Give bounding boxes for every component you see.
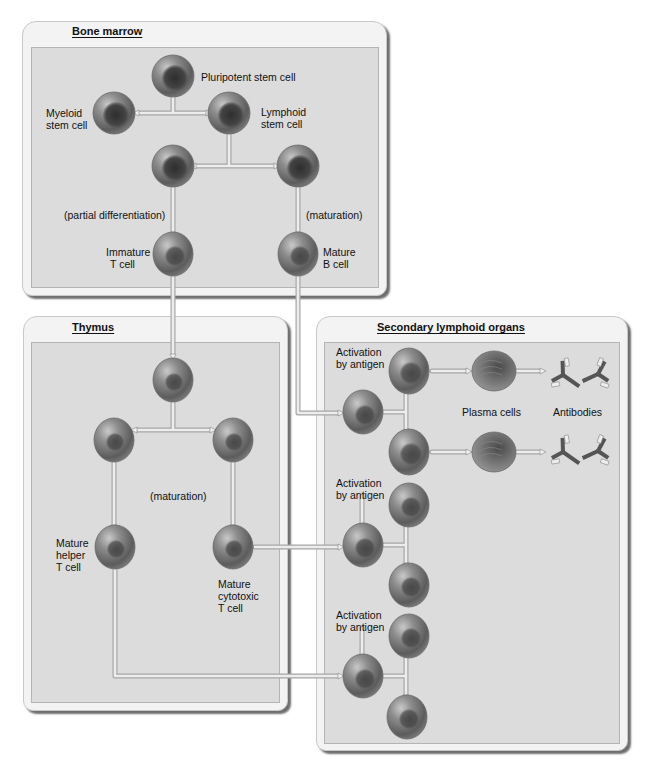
activated-cytotoxic-t-cell	[343, 523, 383, 567]
plasma-cell-top	[472, 351, 516, 391]
t-precursor-cell	[152, 145, 194, 187]
cells	[93, 55, 516, 739]
label-partial-differentiation: (partial differentiation)	[64, 209, 165, 221]
label-activation-3a: Activation	[336, 609, 382, 621]
label-helper-1: Mature	[56, 537, 89, 549]
label-mature-b-2: B cell	[323, 258, 349, 270]
lymphoid-stem-cell	[208, 92, 250, 134]
label-activation-1b: by antigen	[336, 358, 384, 370]
label-maturation-thymus: (maturation)	[150, 490, 207, 502]
helper-daughter-top	[389, 614, 429, 658]
thymocyte-cell	[153, 358, 193, 402]
label-cytotoxic-1: Mature	[218, 578, 251, 590]
antibody-4	[583, 432, 617, 467]
label-activation-2b: by antigen	[336, 489, 384, 501]
label-cytotoxic-3: T cell	[218, 602, 243, 614]
label-lymphoid-1: Lymphoid	[261, 106, 306, 118]
label-mature-b-1: Mature	[323, 246, 356, 258]
label-activation-2a: Activation	[336, 477, 382, 489]
thymus-right-cell	[213, 418, 253, 462]
b-daughter-cell-bottom	[389, 429, 429, 475]
antibody-1	[547, 357, 579, 391]
mature-helper-t-cell	[95, 525, 135, 569]
label-helper-2: helper	[56, 549, 85, 561]
pluripotent-stem-cell	[152, 55, 194, 97]
thymus-left-cell	[94, 418, 134, 462]
plasma-cell-bottom	[472, 432, 516, 472]
diagram-graphics	[0, 0, 649, 772]
label-immature-t-2: T cell	[110, 258, 135, 270]
antibody-2	[583, 355, 617, 390]
cytotoxic-daughter-bottom	[389, 563, 429, 607]
label-myeloid-1: Myeloid	[46, 107, 82, 119]
antibody-3	[547, 434, 579, 468]
myeloid-stem-cell	[93, 92, 135, 134]
immature-t-cell	[153, 232, 193, 276]
label-lymphoid-2: stem cell	[261, 118, 302, 130]
mature-cytotoxic-t-cell	[213, 525, 253, 569]
label-myeloid-2: stem cell	[46, 119, 87, 131]
label-antibodies: Antibodies	[553, 406, 602, 418]
b-daughter-cell-top	[389, 348, 429, 394]
label-activation-3b: by antigen	[336, 621, 384, 633]
label-helper-3: T cell	[56, 561, 81, 573]
activated-helper-t-cell	[343, 654, 383, 698]
b-precursor-cell	[277, 145, 319, 187]
label-activation-1a: Activation	[336, 346, 382, 358]
label-cytotoxic-2: cytotoxic	[218, 590, 259, 602]
mature-b-cell	[278, 232, 318, 276]
label-maturation-bm: (maturation)	[306, 209, 363, 221]
label-plasma-cells: Plasma cells	[462, 406, 521, 418]
helper-daughter-bottom	[387, 695, 427, 739]
activated-b-cell	[343, 390, 383, 434]
label-pluripotent: Pluripotent stem cell	[201, 71, 296, 83]
label-immature-t-1: Immature	[106, 246, 150, 258]
cytotoxic-daughter-top	[389, 483, 429, 527]
